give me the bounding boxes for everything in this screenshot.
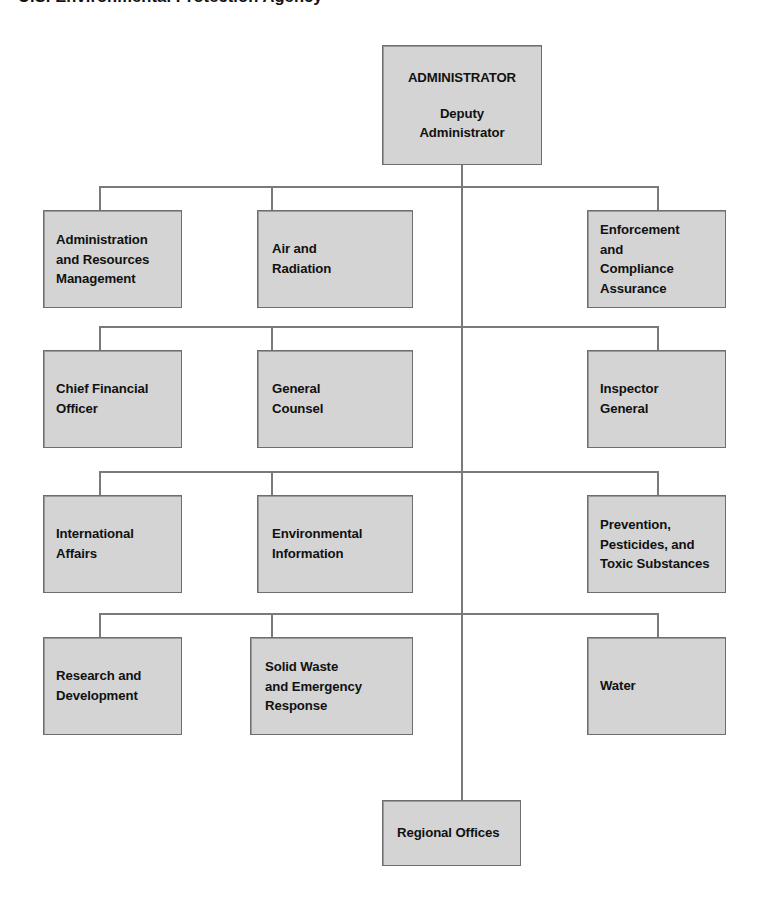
spine-row1-to-row2 [461, 205, 463, 345]
node-prevention-pesticides-and-toxic-substances-label: Prevention, Pesticides, and Toxic Substa… [600, 515, 719, 574]
node-environmental-information-label: Environmental Information [272, 524, 406, 563]
text-line: Regional Offices [397, 825, 499, 840]
node-water-label: Water [600, 676, 719, 696]
drop-row1-left [99, 186, 101, 210]
node-solid-waste-and-emergency-response-label: Solid Waste and Emergency Response [265, 657, 406, 716]
node-regional-offices-label: Regional Offices [397, 823, 514, 843]
drop-row1-right [657, 186, 659, 210]
page-title: U.S. Environmental Protection Agency [18, 0, 718, 7]
text-line: Assurance [600, 281, 667, 296]
org-chart: U.S. Environmental Protection Agency ADM… [0, 0, 773, 904]
drop-row2-right [657, 326, 659, 350]
deputy-line-2: Administrator [419, 125, 504, 140]
node-enforcement-and-compliance-assurance-label: Enforcement and Compliance Assurance [600, 220, 719, 298]
drop-row4-center [271, 613, 273, 637]
node-air-and-radiation-label: Air and Radiation [272, 239, 406, 278]
bus-bar-row1 [99, 186, 659, 188]
node-inspector-general[interactable]: Inspector General [587, 350, 726, 448]
node-solid-waste-and-emergency-response[interactable]: Solid Waste and Emergency Response [250, 637, 413, 735]
spine-root-to-row1 [461, 165, 463, 205]
node-international-affairs-label: International Affairs [56, 524, 175, 563]
spine-row3-to-row4 [461, 490, 463, 632]
text-line: Counsel [272, 401, 323, 416]
spine-row2-to-row3 [461, 345, 463, 490]
deputy-line-1: Deputy [440, 105, 484, 120]
spine-row4-to-footer [461, 632, 463, 800]
drop-row4-left [99, 613, 101, 637]
node-chief-financial-officer-label: Chief Financial Officer [56, 379, 175, 418]
node-enforcement-and-compliance-assurance[interactable]: Enforcement and Compliance Assurance [587, 210, 726, 308]
text-line: and Emergency [265, 678, 362, 693]
text-line: Inspector [600, 381, 658, 396]
text-line: Affairs [56, 546, 97, 561]
text-line: Prevention, [600, 517, 671, 532]
node-chief-financial-officer[interactable]: Chief Financial Officer [43, 350, 182, 448]
node-international-affairs[interactable]: International Affairs [43, 495, 182, 593]
node-administrator[interactable]: ADMINISTRATOR Deputy Administrator [382, 45, 542, 165]
text-line: Air and [272, 241, 317, 256]
text-line: Response [265, 698, 327, 713]
text-line: Solid Waste [265, 659, 338, 674]
drop-row4-right [657, 613, 659, 637]
administrator-title: ADMINISTRATOR [383, 68, 541, 88]
text-line: and [600, 241, 623, 256]
text-line: International [56, 526, 134, 541]
bus-bar-row4 [99, 613, 659, 615]
text-line: Water [600, 678, 636, 693]
text-line: Environmental [272, 526, 362, 541]
drop-row3-left [99, 471, 101, 495]
text-line: Enforcement [600, 222, 680, 237]
bus-bar-row3 [99, 471, 659, 473]
node-general-counsel[interactable]: General Counsel [257, 350, 413, 448]
text-line: Chief Financial [56, 381, 148, 396]
node-administrator-label: ADMINISTRATOR Deputy Administrator [383, 68, 541, 143]
text-line: General [272, 381, 320, 396]
node-research-and-development-label: Research and Development [56, 666, 175, 705]
text-line: Pesticides, and [600, 536, 695, 551]
node-administration-and-resources-management-label: Administration and Resources Management [56, 230, 175, 289]
node-inspector-general-label: Inspector General [600, 379, 719, 418]
text-line: Compliance [600, 261, 674, 276]
node-general-counsel-label: General Counsel [272, 379, 406, 418]
text-line: Administration [56, 232, 148, 247]
drop-row2-center [271, 326, 273, 350]
text-line: and Resources [56, 251, 149, 266]
node-administration-and-resources-management[interactable]: Administration and Resources Management [43, 210, 182, 308]
text-line: Information [272, 546, 343, 561]
drop-row3-right [657, 471, 659, 495]
text-line: General [600, 401, 648, 416]
text-line: Officer [56, 401, 98, 416]
node-water[interactable]: Water [587, 637, 726, 735]
node-research-and-development[interactable]: Research and Development [43, 637, 182, 735]
text-line: Development [56, 688, 138, 703]
bus-bar-row2 [99, 326, 659, 328]
node-air-and-radiation[interactable]: Air and Radiation [257, 210, 413, 308]
drop-row2-left [99, 326, 101, 350]
node-prevention-pesticides-and-toxic-substances[interactable]: Prevention, Pesticides, and Toxic Substa… [587, 495, 726, 593]
text-line: Research and [56, 668, 141, 683]
drop-row3-center [271, 471, 273, 495]
node-environmental-information[interactable]: Environmental Information [257, 495, 413, 593]
node-regional-offices[interactable]: Regional Offices [382, 800, 521, 866]
drop-row1-center [271, 186, 273, 210]
text-line: Management [56, 271, 136, 286]
text-line: Radiation [272, 261, 331, 276]
text-line: Toxic Substances [600, 556, 710, 571]
